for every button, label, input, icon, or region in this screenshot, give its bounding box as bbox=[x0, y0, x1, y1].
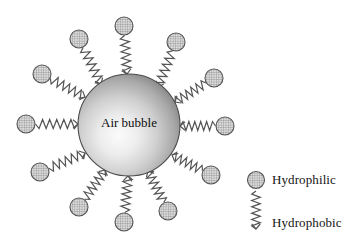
molecule-wsw-head bbox=[31, 163, 49, 181]
molecule-e-head bbox=[216, 117, 234, 135]
molecule-sse-tail bbox=[146, 171, 166, 203]
hydrophobic-tail-zigzag bbox=[121, 176, 132, 213]
hydrophobic-tail-zigzag bbox=[49, 151, 85, 171]
hydrophobic-tail-zigzag bbox=[147, 171, 167, 203]
molecule-w-head bbox=[17, 115, 35, 133]
molecule-ene-head bbox=[205, 69, 223, 87]
molecule-s-tail bbox=[121, 176, 132, 213]
molecule-ese-head bbox=[202, 166, 220, 184]
hydrophobic-tail-zigzag bbox=[120, 35, 131, 74]
hydrophobic-tail-zigzag bbox=[172, 152, 203, 172]
molecule-nne-head bbox=[167, 33, 185, 51]
hydrophobic-tail-zigzag bbox=[50, 78, 85, 100]
molecule-wsw-tail bbox=[49, 151, 85, 171]
molecule-wnw-tail bbox=[50, 78, 85, 100]
molecule-ese-tail bbox=[172, 152, 203, 172]
molecule-n-head bbox=[115, 17, 133, 35]
molecule-nne-tail bbox=[155, 51, 174, 87]
molecule-ene-tail bbox=[175, 81, 206, 103]
molecule-s-head bbox=[115, 213, 133, 231]
molecule-ssw-head bbox=[70, 198, 88, 216]
legend-graphics-group bbox=[248, 172, 265, 230]
legend-hydrophilic-label: Hydrophilic bbox=[272, 172, 336, 188]
molecule-n-tail bbox=[120, 35, 131, 74]
molecule-sse-head bbox=[159, 202, 177, 220]
legend-hydrophilic-head-icon bbox=[248, 172, 265, 189]
figure-canvas: Air bubble Hydrophilic Hydrophobic bbox=[0, 0, 349, 248]
molecule-ssw-tail bbox=[84, 170, 107, 199]
hydrophobic-tail-zigzag bbox=[81, 48, 102, 84]
hydrophobic-tail-zigzag bbox=[155, 51, 174, 87]
legend-hydrophobic-label: Hydrophobic bbox=[272, 215, 342, 231]
molecule-wnw-head bbox=[33, 65, 51, 83]
air-bubble-label: Air bubble bbox=[69, 115, 189, 131]
molecule-nnw-head bbox=[70, 30, 88, 48]
hydrophobic-tail-zigzag bbox=[175, 81, 206, 103]
legend-hydrophobic-tail-icon bbox=[252, 191, 261, 229]
hydrophobic-tail-zigzag bbox=[84, 170, 107, 199]
molecule-nnw-tail bbox=[81, 48, 103, 84]
